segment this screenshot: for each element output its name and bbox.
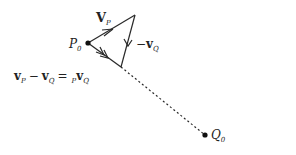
relative-velocity-equation: vP−vQ=PvQ — [13, 69, 89, 85]
vector-neg-vq-line — [121, 15, 135, 67]
point-p0-dot — [85, 40, 90, 45]
vp-arrowhead-icon — [102, 29, 113, 36]
dotted-path-line — [121, 67, 205, 135]
point-q0-dot — [202, 132, 207, 137]
point-p0-label: P0 — [68, 37, 82, 53]
vp-label: VP — [95, 10, 111, 27]
neg-vq-label: −vQ — [136, 37, 159, 53]
relative-velocity-diagram: P0 Q0 VP −vQ vP−vQ=PvQ — [0, 0, 296, 155]
point-q0-label: Q0 — [211, 128, 226, 144]
